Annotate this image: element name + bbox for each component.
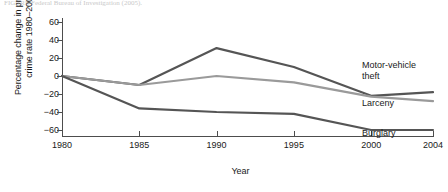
series-label-burglary: Burglary [362,128,396,139]
x-axis-title-text: Year [231,166,249,176]
series-label-larceny: Larceny [362,98,394,109]
x-axis-title: Year [0,166,443,176]
series-label-motor-vehicle-theft: Motor-vehicle theft [362,60,416,81]
series-label-mv-line1: Motor-vehicle [362,60,416,71]
series-label-mv-line2: theft [362,71,416,82]
